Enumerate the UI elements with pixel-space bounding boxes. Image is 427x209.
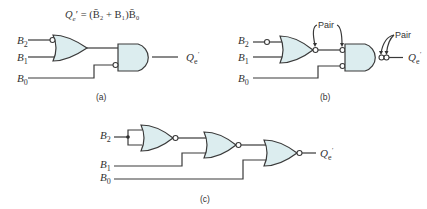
output-bubble-2 [384,55,389,60]
logic-diagrams: Qe′ = (B̄₂ + B₁)B̄₀ B2 B1 B0 Qe′ (a) B2 … [0,0,427,209]
output-label: Qe′ [408,50,422,66]
caption-b: (b) [320,92,331,102]
caption-a: (a) [96,92,107,102]
arrowhead [379,51,383,55]
inverter-bubble-b2 [50,38,55,43]
wire-b2-in2 [128,137,142,145]
equation: Qe′ = (B̄₂ + B₁)B̄₀ [65,9,140,23]
nor-gate-1 [141,125,173,151]
wire-b1 [114,153,206,166]
inverter-bubble-b0 [113,63,118,68]
wire-b0 [114,160,266,179]
diagram-b: B2 B1 B0 Qe′ Pair Pair (b) [238,20,422,102]
output-bubble-nor3 [297,151,302,156]
inverter-bubble-b2 [265,40,270,45]
pair-arrow-1a [313,25,317,45]
and-gate [118,44,148,71]
pair-label-2: Pair [395,30,411,40]
pair-label-1: Pair [318,20,334,30]
caption-c: (c) [200,194,210,204]
inverter-bubble-and-in2 [340,64,345,69]
input-label-b0: B0 [100,171,111,186]
wire-b0 [253,66,340,78]
output-label: Qe′ [320,146,334,162]
output-bubble-nor2 [236,143,241,148]
input-label-b0: B0 [17,72,28,87]
output-label: Qe′ [186,50,200,66]
wire-b2-in1 [128,130,142,137]
input-label-b1: B1 [17,51,28,66]
or-gate [280,36,313,63]
inverter-bubble-and-in1 [340,48,345,53]
nor-gate-2 [204,132,236,158]
arrowhead [313,43,317,47]
input-label-b0: B0 [238,72,249,87]
arrowhead [340,43,344,47]
input-label-b2: B2 [17,34,28,49]
output-bubble-nor1 [173,136,178,141]
input-label-b2: B2 [100,129,111,144]
input-label-b1: B1 [238,51,249,66]
output-bubble-1 [379,55,384,60]
or-gate [53,35,87,61]
diagram-a: Qe′ = (B̄₂ + B₁)B̄₀ B2 B1 B0 Qe′ (a) [17,9,200,102]
pair-arrow-1b [337,25,342,45]
and-gate [345,44,375,71]
output-bubble-or [313,48,318,53]
input-label-b2: B2 [238,34,249,49]
arrowhead [385,51,389,55]
wire-b0 [28,65,113,78]
nor-gate-3 [264,140,297,166]
diagram-c: B2 B1 B0 Qe′ (c) [100,125,334,204]
